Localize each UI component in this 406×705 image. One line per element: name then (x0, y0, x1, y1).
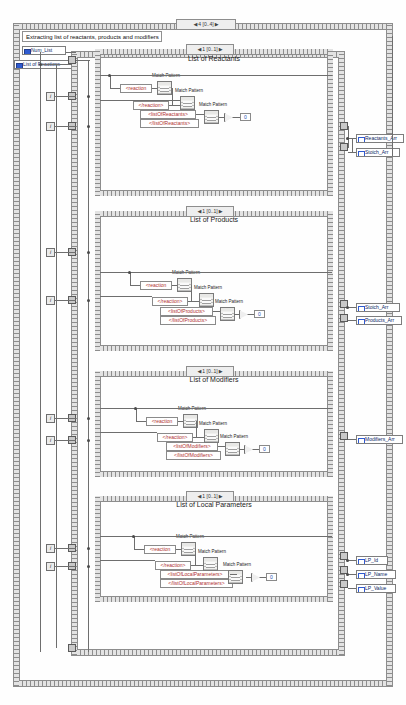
wire-f0-f (233, 117, 240, 118)
tunnel-in-0[interactable] (68, 56, 76, 64)
wire-out-h7 (348, 588, 356, 589)
wire-f2-a (136, 421, 146, 422)
frame1-match-pattern-1[interactable] (199, 293, 214, 307)
frame1-const-1[interactable]: </reaction> (152, 297, 188, 306)
frame0-selector[interactable]: ◀ 1 [0..1] ▶ (186, 44, 234, 55)
wire-f2-e (239, 449, 244, 450)
frame1-match-pattern-0[interactable] (177, 278, 192, 292)
indicator-reactants-arr[interactable]: Reactants_Arr (356, 134, 404, 143)
frame3-match-pattern-1[interactable] (203, 557, 218, 571)
frame-next-arrow[interactable]: ▶ (214, 22, 220, 27)
wire-f1-bus-top (100, 272, 332, 273)
frame2-const-3[interactable]: </listOfModifiers> (166, 451, 221, 460)
loop-iteration-counter[interactable] (68, 644, 76, 652)
num-list-control[interactable]: Num_List (22, 46, 66, 55)
tunnel-out-4[interactable] (340, 432, 348, 440)
tunnel-out-7[interactable] (340, 580, 348, 588)
frame0-match-pattern-2-label: Match Pattern (199, 103, 227, 108)
frame0-match-pattern-0[interactable] (157, 81, 172, 95)
tunnel-out-3[interactable] (340, 314, 348, 322)
junction-13 (346, 137, 349, 140)
wire-f1-e (234, 314, 239, 315)
frame3-match-pattern-2[interactable] (228, 570, 243, 584)
tunnel-out-0[interactable] (340, 122, 348, 130)
indicator-stoich-arr-1[interactable]: Stoich_Arr (356, 303, 400, 312)
frame2-const-0[interactable]: <reaction (146, 417, 178, 426)
frame0-index: 1 [0..1] (202, 47, 217, 52)
structure-left-border (14, 24, 19, 686)
iteration-terminal-0: i (46, 92, 55, 101)
frame0-const-1[interactable]: </reaction> (133, 101, 169, 110)
wire-i6 (55, 548, 76, 549)
junction-6 (87, 547, 90, 550)
frame1-match-pattern-2-label: Match Pattern (215, 300, 243, 305)
frame2-match-pattern-1[interactable] (204, 429, 219, 443)
iteration-terminal-4: i (46, 414, 55, 423)
junction-2 (87, 251, 90, 254)
frame0-match-pattern-1[interactable] (180, 96, 195, 110)
indicator-lp-value[interactable]: LP_Value (356, 584, 396, 593)
wire-f0-v0 (110, 75, 111, 88)
indicator-lp-name[interactable]: LP_Name (356, 570, 396, 579)
frame0-numeric-const[interactable]: 0 (240, 113, 251, 121)
frame1-selector[interactable]: ◀ 1 [0..1] ▶ (186, 206, 234, 217)
frame3-const-0[interactable]: <reaction (144, 545, 176, 554)
frame3-selector[interactable]: ◀ 1 [0..1] ▶ (186, 491, 234, 502)
main-loop-bottom-border (72, 650, 344, 655)
junction-8 (39, 63, 42, 66)
frame3-match-pattern-2-label: Match Pattern (223, 563, 251, 568)
wire-f1-v0 (130, 272, 131, 285)
indicator-products-arr[interactable]: Products_Arr (356, 316, 402, 325)
frame1-const-3[interactable]: </listOfProducts> (160, 316, 216, 325)
frame2-const-2[interactable]: <listOfModifiers> (166, 442, 218, 451)
frame2-match-pattern-2[interactable] (225, 442, 240, 456)
wire-f1-c (188, 301, 199, 302)
frame1-bottom-border (95, 346, 333, 351)
junction-1 (87, 125, 90, 128)
frame2-selector[interactable]: ◀ 1 [0..1] ▶ (186, 366, 234, 377)
frame0-match-pattern-2[interactable] (204, 110, 219, 124)
frame1-index: 1 [0..1] (202, 209, 217, 214)
frame3-match-pattern-0[interactable] (181, 542, 196, 556)
wire-f2-c (193, 437, 204, 438)
frame1-numeric-const[interactable]: 0 (254, 310, 265, 318)
wire-reactions-in (40, 64, 72, 65)
frame1-match-pattern-2[interactable] (220, 307, 235, 321)
wire-f0-c (169, 105, 180, 106)
frame0-const-0[interactable]: <reaction (120, 84, 152, 93)
wire-out-h1 (348, 152, 356, 153)
frame0-right-border (328, 49, 333, 196)
frame3-numeric-const[interactable]: 0 (266, 573, 277, 581)
frame0-const-3[interactable]: </listOfReactants> (140, 119, 199, 128)
indicator-stoich-arr-0[interactable]: Stoich_Arr (356, 148, 400, 157)
frame3-const-2[interactable]: <listOfLocalParameters> (160, 570, 230, 579)
indicator-modifiers-arr[interactable]: Modifiers_Arr (356, 435, 403, 444)
frame-list-of-products[interactable] (96, 212, 332, 350)
iteration-terminal-2: i (46, 248, 55, 257)
outer-frame-selector[interactable]: ◀ 4 [0..4] ▶ (176, 19, 236, 30)
frame1-const-0[interactable]: <reaction (140, 281, 172, 290)
frame2-title: List of Modifiers (100, 376, 328, 383)
wire-f3-c (191, 565, 203, 566)
wire-outer-left-rail2 (56, 64, 57, 648)
frame0-const-2[interactable]: <listOfReactants> (140, 110, 196, 119)
frame0-next-arrow[interactable]: ▶ (218, 47, 224, 52)
frame1-next-arrow[interactable]: ▶ (218, 209, 224, 214)
frame3-const-3[interactable]: </listOfLocalParameters> (160, 579, 233, 588)
frame2-numeric-const[interactable]: 0 (259, 445, 270, 453)
frame3-const-1[interactable]: </reaction> (155, 561, 191, 570)
frame2-const-1[interactable]: </reaction> (157, 433, 193, 442)
frame2-next-arrow[interactable]: ▶ (218, 369, 224, 374)
indicator-lp-id[interactable]: LP_Id (356, 556, 388, 565)
junction-12 (132, 535, 135, 538)
block-diagram-canvas: ◀ 4 [0..4] ▶ Extracting list of reactant… (0, 0, 406, 705)
frame1-const-2[interactable]: <listOfProducts> (160, 307, 213, 316)
wire-out-h4 (348, 439, 356, 440)
tunnel-out-1[interactable] (340, 143, 348, 151)
wire-f0-a (110, 88, 120, 89)
frame2-match-pattern-2-label: Match Pattern (220, 435, 248, 440)
junction-9 (108, 74, 111, 77)
wire-f0-b (152, 88, 157, 89)
frame3-next-arrow[interactable]: ▶ (218, 494, 224, 499)
wire-f0-bus-mid (100, 100, 180, 101)
